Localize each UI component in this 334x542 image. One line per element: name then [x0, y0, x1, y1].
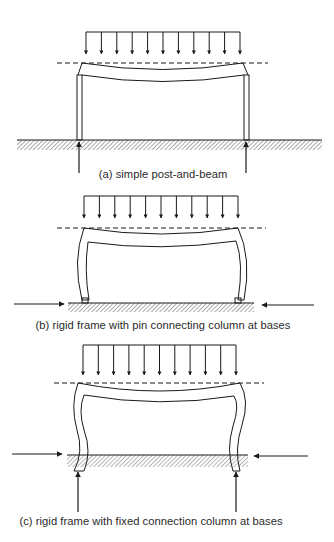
caption-a: (a) simple post-and-beam	[99, 168, 228, 180]
ground-b	[68, 303, 254, 312]
distributed-load-c	[83, 345, 236, 375]
ground-a	[17, 140, 322, 150]
panel-c	[12, 345, 308, 512]
caption-c: (c) rigid frame with fixed connection co…	[19, 515, 282, 527]
pins-b	[82, 298, 241, 303]
beam-a	[78, 63, 248, 82]
distributed-load-a	[86, 32, 240, 54]
ground-c	[67, 455, 248, 467]
structural-frames-diagram	[0, 0, 334, 542]
distributed-load-b	[84, 196, 238, 218]
panel-a	[17, 32, 322, 173]
frame-b	[77, 228, 246, 300]
posts-a	[77, 75, 249, 140]
caption-b: (b) rigid frame with pin connecting colu…	[35, 319, 290, 331]
panel-b	[14, 196, 314, 312]
